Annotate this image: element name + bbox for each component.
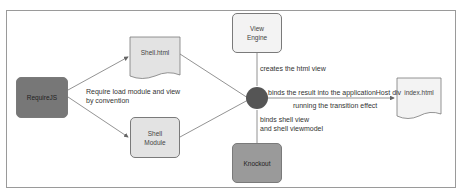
view-engine-node: View Engine [232, 13, 282, 53]
knockout-label: Knockout [243, 159, 270, 168]
knockout-node: Knockout [232, 143, 282, 183]
knockout-edge-label-1: binds shell view [260, 115, 309, 124]
view-engine-edge-label: creates the html view [260, 64, 326, 73]
binds-result-edge-label: binds the result into the applicationHos… [268, 88, 401, 97]
shell-html-label: Shell.html [141, 48, 170, 57]
view-engine-label-2: Engine [247, 33, 267, 42]
view-engine-label-1: View [250, 24, 264, 33]
shell-module-label-2: Module [144, 138, 165, 147]
transition-edge-label: running the transition effect [293, 101, 377, 110]
require-edge-label-2: by convention [86, 96, 129, 105]
index-html-node: index.html [397, 82, 441, 102]
shell-html-node: Shell.html [130, 42, 180, 62]
index-html-label: index.html [404, 88, 434, 97]
hub-junction [246, 87, 268, 109]
requirejs-label: RequireJS [27, 93, 57, 102]
shell-module-node: Shell Module [130, 117, 180, 158]
require-edge-label-1: Require load module and view [86, 87, 180, 96]
shell-module-label-1: Shell [148, 129, 162, 138]
requirejs-node: RequireJS [16, 77, 68, 118]
knockout-edge-label-2: and shell viewmodel [260, 124, 323, 133]
